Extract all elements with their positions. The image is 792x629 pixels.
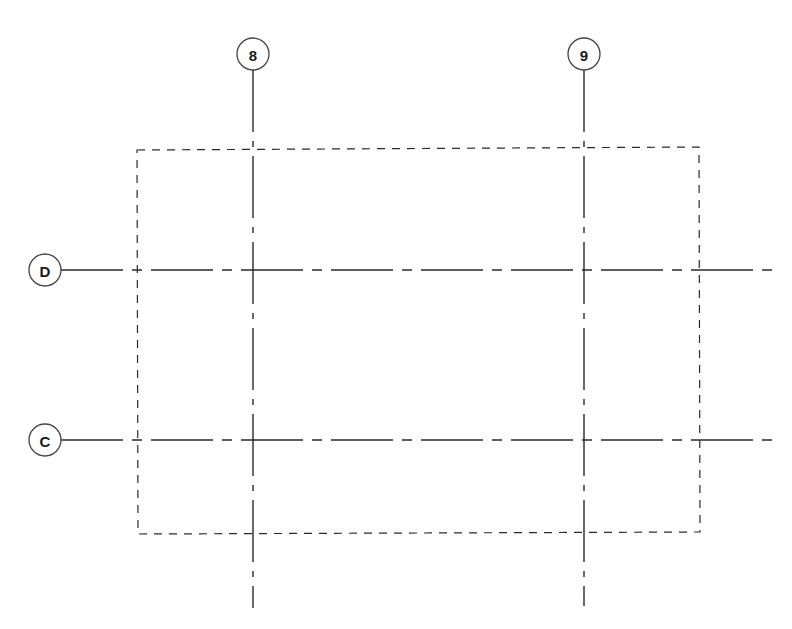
grid-plan-canvas: 8 9 D C bbox=[0, 0, 792, 629]
grid-label-8: 8 bbox=[249, 47, 257, 64]
grid-label-d: D bbox=[40, 263, 51, 280]
grid-label-c: C bbox=[40, 433, 51, 450]
grid-label-9: 9 bbox=[580, 47, 588, 64]
grid-bubble-d[interactable]: D bbox=[29, 254, 61, 286]
dashed-outline-rectangle bbox=[137, 147, 700, 534]
grid-bubble-c[interactable]: C bbox=[29, 424, 61, 456]
grid-bubble-8[interactable]: 8 bbox=[237, 38, 269, 70]
grid-bubble-9[interactable]: 9 bbox=[568, 38, 600, 70]
